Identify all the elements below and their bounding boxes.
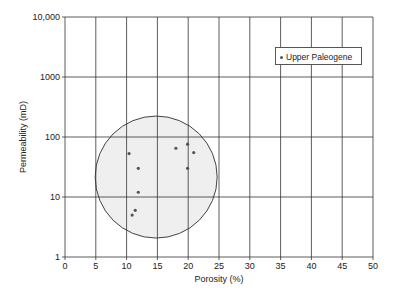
data-point [186,167,189,170]
data-point [127,152,130,155]
legend: Upper Paleogene [275,47,362,65]
data-point [192,151,195,154]
x-tick-label: 40 [306,261,316,271]
y-axis-label: Permeability (mD) [18,101,28,173]
x-tick-label: 30 [245,261,255,271]
scatter-chart: 05101520253035404550 110100100010,000 Po… [0,0,394,298]
y-tick-label: 10,000 [32,12,60,22]
y-tick-label: 10 [50,192,60,202]
data-point [131,213,134,216]
y-axis-ticks: 110100100010,000 [32,12,60,262]
x-axis-ticks: 05101520253035404550 [62,261,378,271]
x-tick-label: 5 [93,261,98,271]
data-point [186,143,189,146]
y-tick-label: 100 [45,132,60,142]
x-tick-label: 50 [368,261,378,271]
cluster-circle [95,116,217,238]
x-axis-label: Porosity (%) [194,274,243,284]
y-tick-label: 1 [55,252,60,262]
data-point [137,167,140,170]
legend-label: Upper Paleogene [286,52,352,62]
legend-marker-icon [280,56,283,59]
data-point [137,191,140,194]
x-tick-label: 20 [183,261,193,271]
x-tick-label: 10 [122,261,132,271]
x-tick-label: 25 [214,261,224,271]
data-point [134,209,137,212]
y-tick-label: 1000 [40,72,60,82]
x-tick-label: 0 [62,261,67,271]
x-tick-label: 15 [152,261,162,271]
highlight-circle [95,116,217,238]
data-point [174,147,177,150]
x-tick-label: 45 [337,261,347,271]
x-tick-label: 35 [276,261,286,271]
